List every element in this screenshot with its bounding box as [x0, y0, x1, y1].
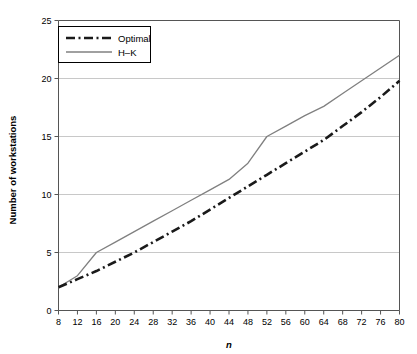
x-tick-label-12: 12 — [72, 317, 82, 327]
x-tick-label-16: 16 — [91, 317, 101, 327]
y-tick-label-15: 15 — [41, 132, 51, 142]
y-tick-label-10: 10 — [41, 190, 51, 200]
legend-label-hk: H–K — [118, 47, 137, 58]
x-tick-label-32: 32 — [167, 317, 177, 327]
x-tick-label-80: 80 — [394, 317, 404, 327]
chart-container: 0510152025 81216202428323640444852566064… — [0, 0, 417, 354]
x-tick-label-68: 68 — [338, 317, 348, 327]
x-tick-label-40: 40 — [205, 317, 215, 327]
x-tick-label-36: 36 — [186, 317, 196, 327]
x-tick-label-20: 20 — [110, 317, 120, 327]
line-chart: 0510152025 81216202428323640444852566064… — [0, 0, 417, 354]
x-tick-label-8: 8 — [56, 317, 61, 327]
x-tick-label-76: 76 — [376, 317, 386, 327]
legend: Optimal H–K — [59, 27, 151, 63]
y-tick-label-0: 0 — [46, 306, 51, 316]
x-tick-label-72: 72 — [357, 317, 367, 327]
y-axis-title: Number of workstations — [7, 116, 18, 225]
x-tick-label-60: 60 — [300, 317, 310, 327]
x-tick-label-48: 48 — [243, 317, 253, 327]
x-axis-title: n — [226, 339, 232, 350]
y-tick-label-25: 25 — [41, 16, 51, 26]
x-tick-label-56: 56 — [281, 317, 291, 327]
x-tick-label-44: 44 — [224, 317, 234, 327]
y-tick-label-5: 5 — [46, 248, 51, 258]
x-tick-label-24: 24 — [129, 317, 139, 327]
x-tick-label-52: 52 — [262, 317, 272, 327]
y-tick-label-20: 20 — [41, 74, 51, 84]
x-tick-label-64: 64 — [319, 317, 329, 327]
x-tick-label-28: 28 — [148, 317, 158, 327]
legend-label-optimal: Optimal — [118, 33, 151, 44]
